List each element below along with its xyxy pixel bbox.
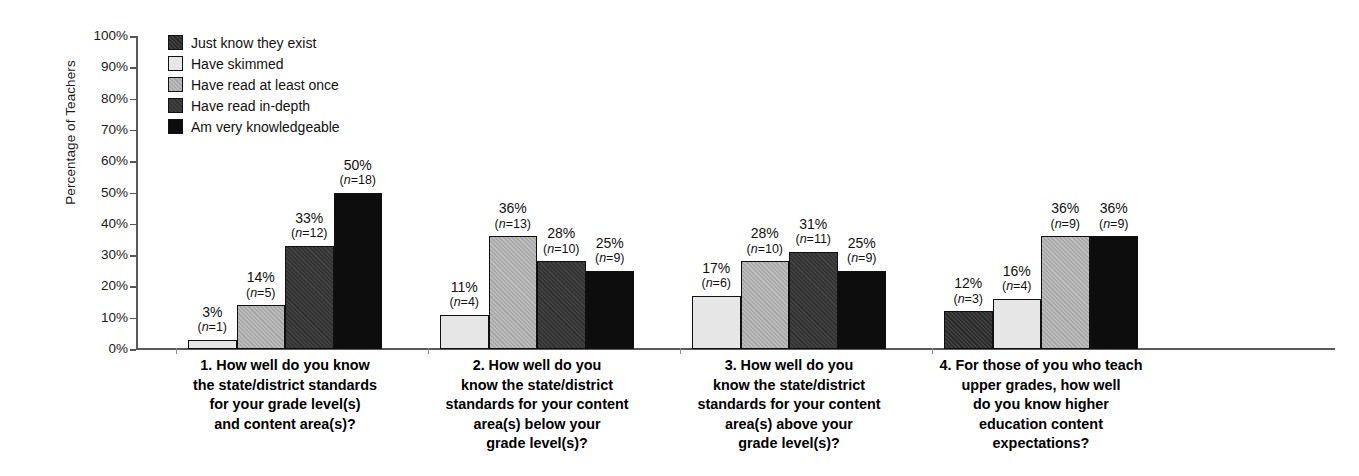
bar-n-value: (n=10) (543, 242, 580, 258)
bar-slot: 33%(n=12) (285, 36, 334, 349)
bar[interactable] (741, 261, 790, 349)
bar-slot: 16%(n=4) (993, 36, 1042, 349)
x-axis-captions: 1. How well do you knowthe state/distric… (137, 356, 1335, 468)
x-axis-caption-line: grade level(s)? (412, 434, 662, 454)
bar-chart: Percentage of Teachers 0%10%20%30%40%50%… (0, 0, 1359, 476)
bar-percent-value: 12% (953, 276, 983, 292)
bar-slot: 31%(n=11) (789, 36, 838, 349)
bar-slot: 25%(n=9) (838, 36, 887, 349)
bar-group: 11%(n=4)36%(n=13)28%(n=10)25%(n=9) (440, 36, 634, 349)
bar-group-bars: 11%(n=4)36%(n=13)28%(n=10)25%(n=9) (440, 36, 634, 349)
bar-n-value: (n=9) (847, 251, 877, 267)
bar-group-bars: 12%(n=3)16%(n=4)36%(n=9)36%(n=9) (944, 36, 1138, 349)
x-axis-caption-line: the state/district standards (160, 376, 410, 396)
x-axis-tick-mark (932, 348, 933, 354)
bar-value-label: 36%(n=9) (1099, 201, 1129, 232)
bar-percent-value: 33% (291, 211, 328, 227)
y-axis-tick-40pct: 40% (101, 217, 128, 231)
x-axis-caption-line: grade level(s)? (664, 434, 914, 454)
bar[interactable] (1041, 236, 1090, 349)
bar-value-label: 17%(n=6) (701, 261, 731, 292)
bar-n-value: (n=13) (495, 217, 532, 233)
y-axis-tick-20pct: 20% (101, 279, 128, 293)
bar-n-value: (n=9) (1099, 217, 1129, 233)
x-axis-caption-line: area(s) below your (412, 415, 662, 435)
bar-slot: 36%(n=9) (1090, 36, 1139, 349)
bar-n-value: (n=10) (747, 242, 784, 258)
bar[interactable] (188, 340, 237, 349)
x-axis-tick-mark (680, 348, 681, 354)
x-axis-caption: 1. How well do you knowthe state/distric… (160, 356, 410, 434)
bar-percent-value: 28% (747, 226, 784, 242)
bar[interactable] (334, 193, 383, 350)
bar[interactable] (944, 311, 993, 349)
y-axis-tick-50pct: 50% (101, 186, 128, 200)
bar-value-label: 50%(n=18) (340, 158, 377, 189)
x-axis-caption-line: area(s) above your (664, 415, 914, 435)
bar-slot: 17%(n=6) (692, 36, 741, 349)
bar-slot: 11%(n=4) (440, 36, 489, 349)
bar-percent-value: 28% (543, 226, 580, 242)
bar-slot: 50%(n=18) (334, 36, 383, 349)
bar-group: 17%(n=6)28%(n=10)31%(n=11)25%(n=9) (692, 36, 886, 349)
bar-n-value: (n=6) (701, 276, 731, 292)
y-axis-tick-100pct: 100% (93, 29, 128, 43)
x-axis-caption-line: 1. How well do you know (160, 356, 410, 376)
x-axis-caption: 2. How well do youknow the state/distric… (412, 356, 662, 454)
bar-n-value: (n=4) (449, 295, 479, 311)
bar-slot: 36%(n=13) (489, 36, 538, 349)
bar-groups: 3%(n=1)14%(n=5)33%(n=12)50%(n=18)11%(n=4… (137, 36, 1335, 349)
x-axis-caption: 3. How well do youknow the state/distric… (664, 356, 914, 454)
x-axis-caption-line: do you know higher (906, 395, 1176, 415)
bar-slot: 3%(n=1) (188, 36, 237, 349)
bar-slot: 28%(n=10) (537, 36, 586, 349)
x-axis-caption-line: 3. How well do you (664, 356, 914, 376)
y-axis-tick-60pct: 60% (101, 154, 128, 168)
bar-percent-value: 50% (340, 158, 377, 174)
bar[interactable] (537, 261, 586, 349)
bar-percent-value: 11% (449, 280, 479, 296)
bar-slot: 28%(n=10) (741, 36, 790, 349)
bar[interactable] (237, 305, 286, 349)
bar-n-value: (n=9) (1050, 217, 1080, 233)
bar-percent-value: 25% (595, 236, 625, 252)
bar-n-value: (n=9) (595, 251, 625, 267)
bar-value-label: 36%(n=13) (495, 201, 532, 232)
bar[interactable] (838, 271, 887, 349)
bar-slot: 14%(n=5) (237, 36, 286, 349)
x-axis-caption-line: standards for your content (664, 395, 914, 415)
bar[interactable] (789, 252, 838, 349)
x-axis-caption-line: standards for your content (412, 395, 662, 415)
x-axis-tick-mark (428, 348, 429, 354)
bar-percent-value: 31% (795, 217, 831, 233)
bar-group: 12%(n=3)16%(n=4)36%(n=9)36%(n=9) (944, 36, 1138, 349)
bar-group-bars: 17%(n=6)28%(n=10)31%(n=11)25%(n=9) (692, 36, 886, 349)
x-axis-caption-line: upper grades, how well (906, 376, 1176, 396)
x-axis-caption-line: know the state/district (412, 376, 662, 396)
bar-value-label: 31%(n=11) (795, 217, 831, 248)
bar[interactable] (440, 315, 489, 349)
bar-value-label: 25%(n=9) (847, 236, 877, 267)
x-axis-caption-line: 4. For those of you who teach (906, 356, 1176, 376)
bar[interactable] (489, 236, 538, 349)
bar[interactable] (993, 299, 1042, 349)
bar-n-value: (n=11) (795, 232, 831, 248)
bar[interactable] (1090, 236, 1139, 349)
bar-n-value: (n=3) (953, 292, 983, 308)
bar-percent-value: 17% (701, 261, 731, 277)
bar[interactable] (692, 296, 741, 349)
bar-percent-value: 16% (1002, 264, 1032, 280)
bar-value-label: 36%(n=9) (1050, 201, 1080, 232)
x-axis-tick-mark (176, 348, 177, 354)
bar-n-value: (n=4) (1002, 279, 1032, 295)
bar-percent-value: 36% (1050, 201, 1080, 217)
bar[interactable] (285, 246, 334, 349)
x-axis-caption-line: for your grade level(s) (160, 395, 410, 415)
bar-value-label: 33%(n=12) (291, 211, 328, 242)
bar[interactable] (586, 271, 635, 349)
y-axis-tick-80pct: 80% (101, 92, 128, 106)
bar-group: 3%(n=1)14%(n=5)33%(n=12)50%(n=18) (188, 36, 382, 349)
y-axis-tick-90pct: 90% (101, 60, 128, 74)
bar-value-label: 16%(n=4) (1002, 264, 1032, 295)
bar-percent-value: 36% (1099, 201, 1129, 217)
